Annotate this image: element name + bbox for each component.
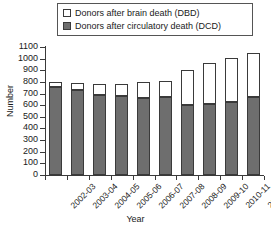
bar-segment-dcd [247, 97, 260, 175]
bar-segment-dbd [247, 53, 260, 97]
x-axis-tick [220, 176, 221, 180]
x-axis-title: Year [0, 214, 271, 224]
y-axis-tick-label: 700 [23, 88, 38, 98]
legend-label: Donors after circulatory death (DCD) [75, 21, 221, 31]
plot-area [45, 47, 264, 175]
bar-segment-dbd [159, 81, 172, 97]
bar-2010-11 [225, 57, 238, 175]
x-axis-tick [198, 176, 199, 180]
y-axis-tick-label: 800 [23, 76, 38, 86]
x-axis-tick [264, 176, 265, 180]
y-axis-tick: 1100 [40, 47, 45, 48]
bar-segment-dcd [49, 87, 62, 175]
bar-segment-dcd [181, 105, 194, 175]
donor-stacked-bar-chart: Donors after brain death (DBD)Donors aft… [0, 0, 271, 230]
bar-2007-08 [159, 81, 172, 175]
bar-2003-04 [71, 83, 84, 175]
bar-segment-dbd [225, 58, 238, 102]
chart-legend: Donors after brain death (DBD)Donors aft… [57, 3, 253, 36]
legend-label: Donors after brain death (DBD) [75, 8, 200, 18]
y-axis-tick: 100 [40, 163, 45, 164]
bar-segment-dcd [137, 98, 150, 175]
y-axis-tick: 500 [40, 117, 45, 118]
bar-segment-dcd [93, 95, 106, 175]
bar-segment-dbd [203, 63, 216, 104]
y-axis-tick-label: 1000 [18, 53, 38, 63]
y-axis-tick-label: 300 [23, 134, 38, 144]
bar-2005-06 [115, 84, 128, 175]
bar-2008-09 [181, 70, 194, 175]
y-axis-tick-label: 200 [23, 146, 38, 156]
bar-segment-dcd [71, 90, 84, 175]
legend-item-dcd: Donors after circulatory death (DCD) [63, 20, 248, 32]
y-axis-title: Number [5, 71, 15, 131]
y-axis-tick-label: 1100 [19, 41, 38, 51]
y-axis-tick-label: 600 [23, 99, 38, 109]
y-axis-tick-label: 100 [23, 157, 38, 167]
bar-segment-dcd [159, 97, 172, 175]
x-axis-tick [155, 176, 156, 180]
y-axis-tick-label: 400 [23, 122, 38, 132]
bar-segment-dbd [71, 83, 84, 90]
legend-item-dbd: Donors after brain death (DBD) [63, 7, 248, 19]
x-axis-tick [242, 176, 243, 180]
bar-segment-dbd [137, 82, 150, 98]
bar-segment-dcd [203, 104, 216, 175]
y-axis-tick: 800 [40, 82, 45, 83]
y-axis-tick: 700 [40, 94, 45, 95]
x-axis-tick [89, 176, 90, 180]
bar-segment-dcd [115, 96, 128, 175]
bar-segment-dcd [225, 102, 238, 175]
x-axis-tick [45, 176, 46, 180]
legend-swatch-dbd-icon [63, 9, 71, 17]
y-axis-tick-label: 900 [23, 64, 38, 74]
bar-segment-dbd [93, 84, 106, 94]
legend-swatch-dcd-icon [63, 22, 71, 30]
x-axis-tick [111, 176, 112, 180]
y-axis-tick: 400 [40, 128, 45, 129]
bar-2006-07 [137, 82, 150, 175]
bar-2004-05 [93, 84, 106, 175]
bar-2002-03 [49, 82, 62, 175]
x-axis-tick [176, 176, 177, 180]
y-axis-tick: 300 [40, 140, 45, 141]
y-axis-tick: 1000 [40, 59, 45, 60]
y-axis-tick: 600 [40, 105, 45, 106]
bar-segment-dbd [115, 84, 128, 96]
x-axis-tick [133, 176, 134, 180]
bar-segment-dbd [181, 70, 194, 105]
y-axis-tick-label: 0 [33, 169, 38, 179]
y-axis-tick: 200 [40, 152, 45, 153]
bar-2009-10 [203, 63, 216, 175]
x-axis-tick [67, 176, 68, 180]
y-axis-tick-label: 500 [23, 111, 38, 121]
bar-2011-12 [247, 53, 260, 175]
y-axis-tick: 900 [40, 70, 45, 71]
